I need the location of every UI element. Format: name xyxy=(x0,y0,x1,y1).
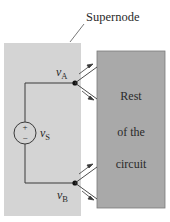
rest-of-circuit-line-3: circuit xyxy=(116,157,147,171)
source-minus-sign: − xyxy=(22,133,27,143)
source-plus-sign: + xyxy=(22,122,27,132)
supernode-label: Supernode xyxy=(86,10,140,24)
supernode-leader-line xyxy=(70,24,84,42)
rest-of-circuit-line-1: Rest xyxy=(120,89,142,103)
node-a-current-arrows xyxy=(79,64,94,100)
voltage-source-icon: + − xyxy=(14,122,36,144)
rest-of-circuit-line-2: of the xyxy=(117,125,145,139)
supernode-diagram: Supernode + − vS vA vB xyxy=(0,0,170,222)
node-b-current-arrows xyxy=(79,164,94,200)
